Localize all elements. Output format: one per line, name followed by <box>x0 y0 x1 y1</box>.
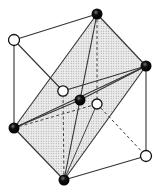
atom-filled-top <box>92 9 103 20</box>
atom-filled-bottom <box>59 175 70 186</box>
atom-filled-left <box>9 123 20 134</box>
atom-open-lower-right <box>141 151 152 162</box>
atom-filled-right <box>141 61 152 72</box>
atom-open-center <box>58 86 68 96</box>
atom-open-upper-left <box>9 35 20 46</box>
atom-open-center-right <box>92 99 102 109</box>
atom-filled-center <box>75 95 86 106</box>
unit-cell-diagram <box>0 0 160 192</box>
